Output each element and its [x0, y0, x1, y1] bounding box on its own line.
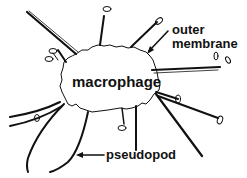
macrophage-label: macrophage [72, 74, 161, 89]
outer-membrane-label-line1: outer [172, 23, 205, 36]
pseudopod-right [152, 67, 220, 70]
outer-membrane-label-line2: membrane [172, 37, 238, 50]
spike-left-knob [58, 50, 66, 62]
spike-top-left [27, 12, 76, 54]
pseudopod-label: pseudopod [106, 148, 176, 161]
particle-2 [225, 56, 232, 64]
particle-1 [214, 52, 218, 60]
spike-top-knob [100, 16, 104, 45]
spike-bottom-knob [122, 108, 124, 124]
pseudopod-labeled [50, 112, 88, 172]
macrophage-diagram: macrophage outer membrane pseudopod [0, 0, 247, 178]
spike-top-right-knob [131, 22, 157, 47]
